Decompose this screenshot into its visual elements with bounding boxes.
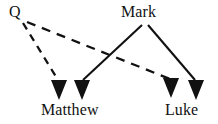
edge-mark-to-luke-line (148, 25, 195, 80)
edge-q-to-luke-line (27, 22, 170, 79)
arrowhead-q-to-luke-icon (163, 78, 179, 98)
node-label-matthew: Matthew (41, 101, 99, 118)
node-label-luke: Luke (165, 101, 198, 118)
edge-mark-to-matthew-line (83, 25, 142, 80)
edge-q-to-matthew-line (23, 23, 58, 80)
source-hypothesis-diagram: Q Mark Matthew Luke (0, 0, 218, 124)
node-label-q: Q (9, 3, 21, 20)
arrowhead-mark-to-matthew-icon (74, 80, 90, 100)
arrowhead-mark-to-luke-icon (188, 80, 204, 100)
node-label-mark: Mark (121, 3, 156, 20)
arrowhead-q-to-matthew-icon (51, 80, 67, 100)
